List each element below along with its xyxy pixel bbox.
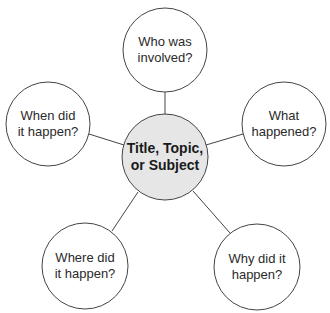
center-label: Title, Topic,or Subject xyxy=(122,114,208,200)
node-where-label: Where didit happen? xyxy=(42,223,128,309)
where-line-2: it happen? xyxy=(55,266,116,281)
node-why-label: Why did ithappen? xyxy=(214,224,300,310)
why-line-1: Why did it xyxy=(228,251,285,266)
when-line-2: it happen? xyxy=(18,124,79,139)
what-line-1: What xyxy=(269,108,299,123)
connector-what xyxy=(206,134,243,145)
connector-when xyxy=(89,134,124,145)
center-line-2: or Subject xyxy=(131,157,199,173)
center-line-1: Title, Topic, xyxy=(127,140,204,156)
node-who-label: Who wasinvolved? xyxy=(123,8,207,92)
node-what-label: Whathappened? xyxy=(242,82,326,166)
when-line-1: When did xyxy=(21,108,76,123)
why-line-2: happen? xyxy=(232,267,283,282)
what-line-2: happened? xyxy=(251,124,316,139)
node-when-label: When didit happen? xyxy=(6,82,90,166)
who-line-2: involved? xyxy=(138,50,193,65)
who-line-1: Who was xyxy=(138,34,191,49)
where-line-1: Where did xyxy=(55,250,114,265)
